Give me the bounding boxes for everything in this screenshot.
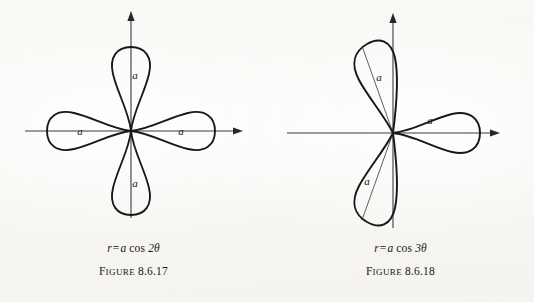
equation-coefficient: a <box>120 242 126 254</box>
equation-argument: 3θ <box>415 242 427 254</box>
petal-lower-left <box>354 133 397 225</box>
figure-label-lead: F <box>99 265 106 277</box>
y-axis <box>389 13 396 228</box>
figure-label-word: IGURE <box>106 267 136 277</box>
figure-label-lead: F <box>366 265 373 277</box>
equation-coefficient: a <box>387 242 393 254</box>
y-axis-arrowhead-icon <box>389 13 396 23</box>
equation-function: cos <box>396 242 412 254</box>
equation-argument: 2θ <box>148 242 160 254</box>
figure-label-8-6-17: FIGURE 8.6.17 <box>99 265 168 277</box>
equation-cos-3theta: r=a cos 3θ <box>374 242 427 254</box>
petal-label-bottom: a <box>132 177 138 189</box>
equation-cos-2theta: r=a cos 2θ <box>107 242 160 254</box>
figure-number-caption-wrap-right: FIGURE 8.6.18 <box>267 261 534 279</box>
y-axis-arrowhead-icon <box>127 11 134 21</box>
figure-number-caption-wrap-left: FIGURE 8.6.17 <box>0 261 267 279</box>
x-axis-arrowhead-icon <box>490 129 500 136</box>
equation-caption-wrap-left: r=a cos 2θ <box>0 238 267 256</box>
petal-label-upper-left: a <box>376 71 382 83</box>
figure-label-word: IGURE <box>373 267 403 277</box>
figure-8-6-18: a a a r=a cos 3θ FIGURE 8.6.18 <box>267 0 534 302</box>
equation-caption-wrap-right: r=a cos 3θ <box>267 238 534 256</box>
rose-curve-svg-4-petal: a a a a <box>0 0 267 240</box>
x-axis-arrowhead-icon <box>233 127 243 134</box>
rose-curve-svg-3-petal: a a a <box>267 0 534 240</box>
petal-label-right: a <box>427 114 433 126</box>
petal-label-left: a <box>77 125 83 137</box>
polar-plot-cos-2theta: a a a a <box>0 0 267 240</box>
figure-label-number: 8.6.17 <box>138 265 168 277</box>
radius-line-upper-left <box>362 46 393 133</box>
petal-label-right: a <box>178 125 184 137</box>
petal-label-top: a <box>132 69 138 81</box>
petal-upper-left <box>354 41 397 133</box>
figure-label-number: 8.6.18 <box>405 265 435 277</box>
equation-function: cos <box>129 242 145 254</box>
petal-label-lower-left: a <box>364 175 370 187</box>
figure-8-6-17: a a a a r=a cos 2θ FIGURE 8.6.17 <box>0 0 267 302</box>
figure-label-8-6-18: FIGURE 8.6.18 <box>366 265 435 277</box>
polar-plot-cos-3theta: a a a <box>267 0 534 240</box>
